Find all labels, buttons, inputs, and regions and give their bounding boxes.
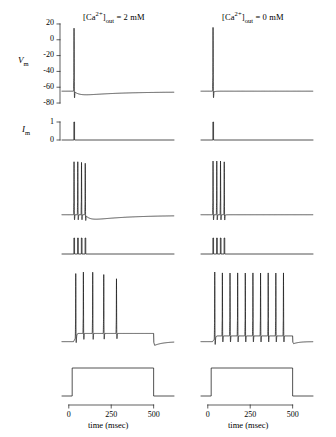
trace-vm-right-row3 xyxy=(201,161,313,220)
trace-im-left-row2 xyxy=(62,122,174,140)
trace-vm-right-row1 xyxy=(201,27,313,97)
trace-vm-right-row5 xyxy=(201,272,313,344)
vm-tick-label: -60 xyxy=(14,82,54,91)
im-tick-label: 0 xyxy=(34,135,54,144)
trace-im-left-row6 xyxy=(62,368,174,396)
trace-vm-left-row3 xyxy=(62,162,174,221)
trace-im-right-row4 xyxy=(201,238,313,254)
x-tick-label: 0 xyxy=(53,410,85,419)
im-tick-label: 1 xyxy=(34,117,54,126)
trace-im-right-row2 xyxy=(201,122,313,140)
x-axis-label-left: time (msec) xyxy=(88,420,128,430)
vm-tick-label: -40 xyxy=(14,66,54,75)
x-tick-label: 500 xyxy=(138,410,170,419)
vm-tick-label: 20 xyxy=(14,18,54,27)
vm-tick-label: -20 xyxy=(14,50,54,59)
figure-panel: [Ca2+]out = 2 mM [Ca2+]out = 0 mM Vm Im … xyxy=(0,0,336,437)
x-tick-label: 250 xyxy=(95,410,127,419)
trace-vm-left-row5 xyxy=(62,272,174,345)
x-tick-label: 500 xyxy=(277,410,309,419)
vm-tick-label: 0 xyxy=(14,34,54,43)
x-tick-label: 0 xyxy=(192,410,224,419)
trace-vm-left-row1 xyxy=(62,28,174,98)
trace-im-right-row6 xyxy=(201,368,313,396)
vm-tick-label: -80 xyxy=(14,98,54,107)
trace-im-left-row4 xyxy=(62,238,174,254)
x-tick-label: 250 xyxy=(234,410,266,419)
x-axis-label-right: time (msec) xyxy=(228,420,268,430)
